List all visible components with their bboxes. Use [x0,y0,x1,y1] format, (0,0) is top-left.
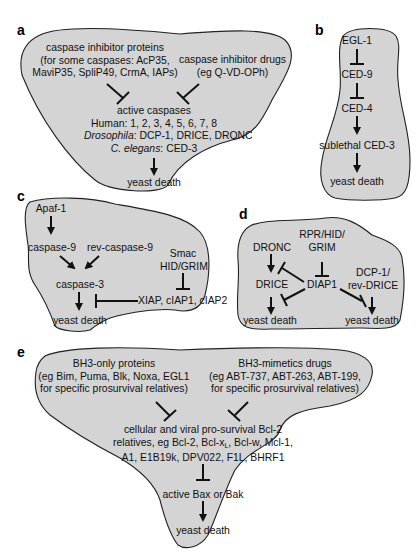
rpr-hid-grim-label: RPR/HID/ GRIM [298,229,346,254]
panel-label-b: b [315,22,324,38]
panel-label-e: e [17,344,25,360]
ced9-node: CED-9 [327,69,387,82]
panel-a-yeast-death: yeast death [114,177,194,190]
egl1-node: EGL-1 [327,35,387,48]
dronc-node: DRONC [250,242,294,255]
sublethal-ced3-node: sublethal CED-3 [317,140,397,153]
caspase-inhibitor-drugs-label: caspase inhibitor drugs (eg Q-VD-OPh) [175,54,290,79]
drice-node: DRICE [252,279,292,292]
apaf1-node: Apaf-1 [30,203,72,216]
dcp1-rev-drice-label: DCP-1/ rev-DRICE [346,267,400,292]
panel-label-d: d [239,206,248,222]
smac-hid-grim-label: Smac HID/GRIM [160,248,206,273]
caspase3-node: caspase-3 [52,279,108,292]
panel-b-yeast-death: yeast death [322,176,392,189]
rev-caspase9-node: rev-caspase-9 [82,242,158,255]
ced4-node: CED-4 [327,103,387,116]
caspase-inhibitor-proteins-label: caspase inhibitor proteins (for some cas… [30,42,180,80]
active-caspases-label: active caspases Human: 1, 2, 3, 4, 5, 6,… [84,105,224,155]
panel-d-yeast-death-right: yeast death [342,315,402,328]
bcl2-relatives-label: cellular and viral pro-survival Bcl-2 re… [108,424,298,465]
panel-d-yeast-death-left: yeast death [240,315,300,328]
panel-label-c: c [17,188,25,204]
panel-c-yeast-death: yeast death [50,315,110,328]
diap1-node: DIAP1 [304,279,340,292]
caspase9-node: caspase-9 [24,242,80,255]
panel-e-yeast-death: yeast death [170,525,236,538]
active-bax-bak-node: active Bax or Bak [158,489,248,502]
xiap-ciap-node: XIAP, cIAP1, cIAP2 [138,295,210,308]
bh3-only-proteins-label: BH3-only proteins (eg Bim, Puma, Blk, No… [34,358,194,396]
bh3-mimetics-drugs-label: BH3-mimetics drugs (eg ABT-737, ABT-263,… [205,358,365,396]
panel-label-a: a [17,22,25,38]
